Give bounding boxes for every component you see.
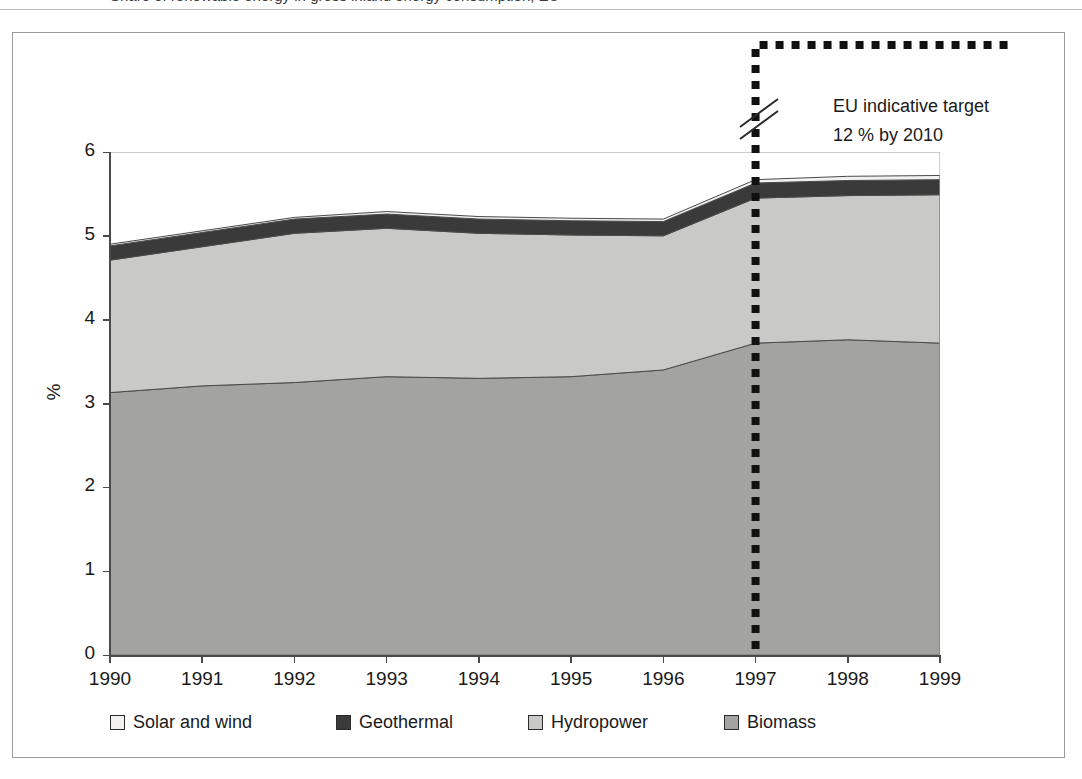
x-tick-1993 [386, 656, 388, 663]
x-tick-label-1992: 1992 [254, 668, 334, 690]
legend-label: Hydropower [551, 712, 648, 733]
y-axis-title: % [43, 384, 65, 401]
x-tick-1991 [201, 656, 203, 663]
legend-item-geothermal[interactable]: Geothermal [336, 712, 453, 733]
x-tick-label-1996: 1996 [623, 668, 703, 690]
x-axis-line [109, 655, 941, 657]
x-tick-1996 [663, 656, 665, 663]
x-tick-1992 [294, 656, 296, 663]
x-tick-1990 [109, 656, 111, 663]
chart-canvas [0, 0, 1082, 779]
legend-item-biomass[interactable]: Biomass [724, 712, 816, 733]
y-tick-label-4: 4 [55, 307, 95, 329]
legend-item-hydropower[interactable]: Hydropower [528, 712, 648, 733]
legend-item-solar-and-wind[interactable]: Solar and wind [110, 712, 252, 733]
x-tick-label-1997: 1997 [716, 668, 796, 690]
legend-swatch-icon [724, 715, 739, 730]
y-tick-2 [103, 487, 110, 489]
legend-label: Biomass [747, 712, 816, 733]
x-tick-1999 [939, 656, 941, 663]
y-tick-6 [103, 152, 110, 154]
y-tick-label-6: 6 [55, 139, 95, 161]
y-tick-1 [103, 571, 110, 573]
x-tick-1994 [478, 656, 480, 663]
y-tick-label-5: 5 [55, 223, 95, 245]
x-tick-label-1991: 1991 [162, 668, 242, 690]
y-tick-label-2: 2 [55, 474, 95, 496]
legend-label: Solar and wind [133, 712, 252, 733]
legend-label: Geothermal [359, 712, 453, 733]
x-tick-label-1999: 1999 [900, 668, 980, 690]
area-series-biomass [110, 340, 940, 655]
x-tick-label-1990: 1990 [70, 668, 150, 690]
x-tick-label-1993: 1993 [347, 668, 427, 690]
x-tick-1998 [847, 656, 849, 663]
legend-swatch-icon [528, 715, 543, 730]
legend-swatch-icon [336, 715, 351, 730]
y-tick-5 [103, 235, 110, 237]
x-tick-label-1995: 1995 [531, 668, 611, 690]
chart-legend: Solar and windGeothermalHydropowerBiomas… [110, 712, 940, 738]
x-tick-1997 [755, 656, 757, 663]
y-tick-label-0: 0 [55, 642, 95, 664]
legend-swatch-icon [110, 715, 125, 730]
x-tick-label-1998: 1998 [808, 668, 888, 690]
x-tick-label-1994: 1994 [439, 668, 519, 690]
y-tick-4 [103, 319, 110, 321]
y-tick-label-1: 1 [55, 558, 95, 580]
y-tick-3 [103, 403, 110, 405]
x-tick-1995 [570, 656, 572, 663]
